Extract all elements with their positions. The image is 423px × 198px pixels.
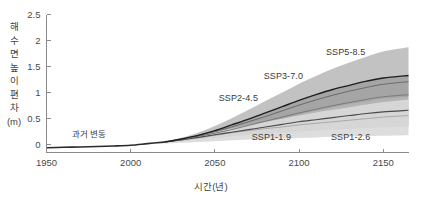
y-tick-label: 1.5 [27,61,40,72]
series-label-ssp1-1.9: SSP1-1.9 [252,132,291,142]
y-axis-title-char: 면 [10,48,19,59]
series-label-ssp1-2.6: SSP1-2.6 [331,132,370,142]
x-axis-title: 시간(년) [194,181,227,192]
x-tick-label: 2000 [120,157,141,168]
y-axis-ticks [47,15,51,145]
y-axis-title-char: 차 [10,102,19,113]
x-axis-ticks [47,149,384,153]
x-tick-label: 2100 [288,157,309,168]
chart-canvas: 00.511.522.5 19502000205021002150 시간(년) … [0,0,423,198]
y-axis-title-char: 높 [10,62,19,73]
series-label-ssp5-8.5: SSP5-8.5 [326,47,365,57]
y-axis-title: 해수면높이편차(m) [7,21,21,127]
series-label-ssp3-7.0: SSP3-7.0 [264,71,303,81]
x-tick-label: 2050 [204,157,225,168]
y-axis-title-char: 이 [10,75,19,86]
y-tick-label: 2 [35,35,40,46]
uncertainty-bands [164,47,408,143]
line-historical [47,142,165,148]
x-axis-tick-labels: 19502000205021002150 [36,157,394,168]
y-tick-label: 2.5 [27,9,40,20]
x-tick-label: 2150 [373,157,394,168]
y-axis-title-char: 편 [10,89,19,100]
x-tick-label: 1950 [36,157,57,168]
y-tick-label: 0.5 [27,113,40,124]
annotation-historical: 과거 변동 [72,129,106,139]
y-axis-title-char: 해 [10,21,19,32]
y-axis-title-char: 수 [10,35,19,46]
series-label-ssp2-4.5: SSP2-4.5 [219,93,258,103]
sea-level-projection-chart: 00.511.522.5 19502000205021002150 시간(년) … [0,0,423,198]
y-tick-label: 0 [35,139,40,150]
y-axis-tick-labels: 00.511.522.5 [27,9,40,150]
y-axis-title-char: (m) [7,116,21,127]
y-tick-label: 1 [35,87,40,98]
